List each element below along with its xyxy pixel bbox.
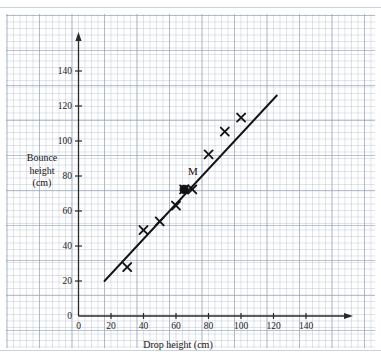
y-axis-title: Bounce height (cm) bbox=[14, 152, 70, 190]
y-tick-label-120: 120 bbox=[48, 101, 72, 111]
y-tick-label-40: 40 bbox=[48, 241, 72, 251]
x-axis-title: Drop height (cm) bbox=[143, 339, 212, 350]
data-point-cross bbox=[123, 263, 131, 271]
x-tick-label-140: 140 bbox=[299, 321, 313, 331]
y-tick-label-20: 20 bbox=[48, 276, 72, 286]
x-tick-label-100: 100 bbox=[234, 321, 248, 331]
data-point-cross bbox=[237, 114, 245, 122]
y-axis-title-line-1: Bounce bbox=[14, 152, 70, 165]
x-tick-label-60: 60 bbox=[171, 321, 181, 331]
x-tick-label-20: 20 bbox=[106, 321, 116, 331]
data-point-cross bbox=[140, 226, 148, 234]
mean-point-marker bbox=[180, 185, 188, 193]
x-tick-label-80: 80 bbox=[204, 321, 214, 331]
scatter-plot-figure: 0 20 40 60 80 100 120 140 0 20 40 60 80 … bbox=[0, 0, 381, 363]
x-tick-label-0: 0 bbox=[76, 321, 81, 331]
x-tick-label-120: 120 bbox=[266, 321, 280, 331]
y-tick-label-60: 60 bbox=[48, 206, 72, 216]
data-point-cross bbox=[205, 150, 213, 158]
y-axis-title-line-2: height bbox=[14, 165, 70, 178]
x-tick-label-40: 40 bbox=[139, 321, 149, 331]
y-tick-label-0: 0 bbox=[48, 311, 72, 321]
y-tick-label-140: 140 bbox=[48, 66, 72, 76]
y-axis-arrow-icon bbox=[75, 32, 81, 41]
y-axis-title-line-3: (cm) bbox=[14, 177, 70, 190]
data-point-cross bbox=[221, 128, 229, 136]
y-tick-label-100: 100 bbox=[48, 136, 72, 146]
x-axis-arrow-icon bbox=[344, 313, 353, 319]
data-point-cross bbox=[156, 217, 164, 225]
mean-point-label: M bbox=[188, 165, 198, 177]
